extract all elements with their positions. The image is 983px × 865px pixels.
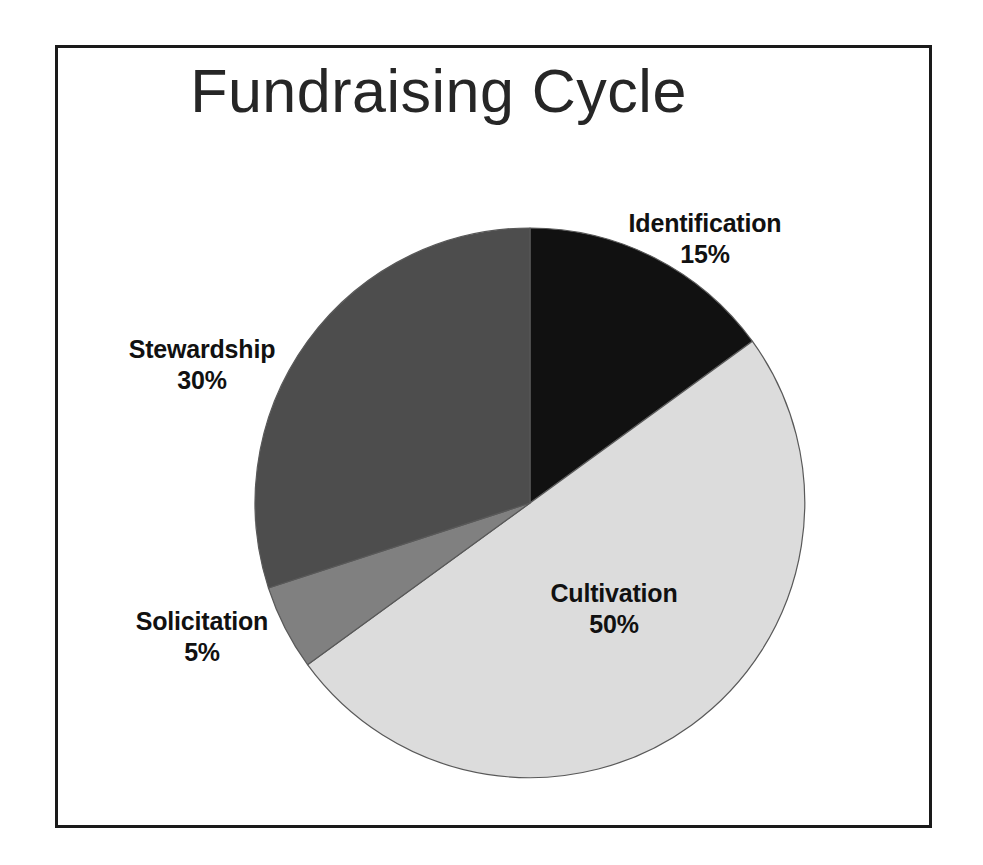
pie-slices xyxy=(255,228,805,778)
pie-label-solicitation-name: Solicitation xyxy=(94,606,310,637)
pie-label-identification-value: 15% xyxy=(597,239,813,270)
pie-label-solicitation-value: 5% xyxy=(94,637,310,668)
pie-label-stewardship-name: Stewardship xyxy=(94,334,310,365)
slide-canvas: Fundraising Cycle Identification 15% Cul… xyxy=(0,0,983,865)
pie-label-identification-name: Identification xyxy=(597,208,813,239)
pie-label-stewardship-value: 30% xyxy=(94,365,310,396)
pie-label-cultivation: Cultivation 50% xyxy=(506,578,722,639)
pie-label-stewardship: Stewardship 30% xyxy=(94,334,310,395)
pie-label-solicitation: Solicitation 5% xyxy=(94,606,310,667)
pie-label-cultivation-value: 50% xyxy=(506,609,722,640)
page-title: Fundraising Cycle xyxy=(0,58,877,125)
pie-label-cultivation-name: Cultivation xyxy=(506,578,722,609)
pie-label-identification: Identification 15% xyxy=(597,208,813,269)
